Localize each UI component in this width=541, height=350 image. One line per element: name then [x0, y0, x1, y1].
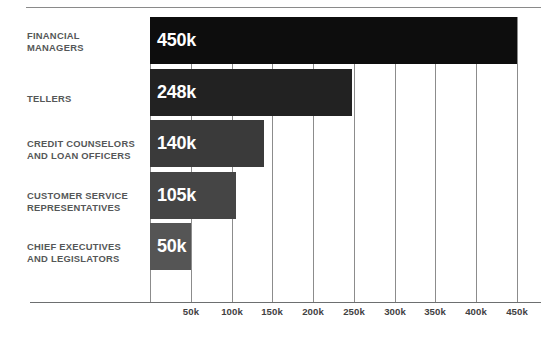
- plot-area: 450k248k140k105k50k: [150, 17, 517, 302]
- bar[interactable]: 248k: [150, 69, 352, 116]
- bar[interactable]: 140k: [150, 120, 264, 167]
- category-label-line2: AND LEGISLATORS: [27, 253, 149, 265]
- category-label-column: FINANCIAL MANAGERS TELLERS CREDIT COUNSE…: [0, 0, 150, 302]
- x-axis-tick-labels: 50k100k150k200k250k300k350k400k450k: [150, 306, 517, 326]
- bar[interactable]: 450k: [150, 17, 517, 64]
- category-label-line2: REPRESENTATIVES: [27, 202, 149, 214]
- tick-label-450k: 450k: [506, 306, 528, 317]
- gridline-450k: [517, 17, 518, 302]
- category-label-line2: MANAGERS: [27, 42, 149, 54]
- category-label-credit-counselors: CREDIT COUNSELORS AND LOAN OFFICERS: [27, 138, 149, 161]
- category-label-line1: FINANCIAL: [27, 30, 149, 42]
- category-label-financial-managers: FINANCIAL MANAGERS: [27, 30, 149, 53]
- bar-value-label: 140k: [150, 133, 196, 154]
- tick-label-250k: 250k: [343, 306, 365, 317]
- bar-value-label: 50k: [150, 236, 186, 257]
- tick-label-350k: 350k: [424, 306, 446, 317]
- category-label-line1: CREDIT COUNSELORS: [27, 138, 149, 150]
- x-axis-baseline: [30, 302, 541, 303]
- tick-label-300k: 300k: [384, 306, 406, 317]
- tick-label-50k: 50k: [183, 306, 199, 317]
- category-label-line1: CHIEF EXECUTIVES: [27, 241, 149, 253]
- category-label-customer-service: CUSTOMER SERVICE REPRESENTATIVES: [27, 190, 149, 213]
- tick-label-400k: 400k: [465, 306, 487, 317]
- tick-label-150k: 150k: [261, 306, 283, 317]
- bar-value-label: 450k: [150, 30, 196, 51]
- bar-chart: FINANCIAL MANAGERS TELLERS CREDIT COUNSE…: [0, 0, 541, 350]
- category-label-tellers: TELLERS: [27, 93, 149, 105]
- category-label-line1: TELLERS: [27, 93, 149, 105]
- category-label-line1: CUSTOMER SERVICE: [27, 190, 149, 202]
- bar-value-label: 248k: [150, 82, 196, 103]
- tick-label-200k: 200k: [302, 306, 324, 317]
- bar[interactable]: 50k: [150, 223, 191, 270]
- category-label-chief-executives: CHIEF EXECUTIVES AND LEGISLATORS: [27, 241, 149, 264]
- bar-value-label: 105k: [150, 185, 196, 206]
- category-label-line2: AND LOAN OFFICERS: [27, 150, 149, 162]
- tick-label-100k: 100k: [221, 306, 243, 317]
- bar[interactable]: 105k: [150, 172, 236, 219]
